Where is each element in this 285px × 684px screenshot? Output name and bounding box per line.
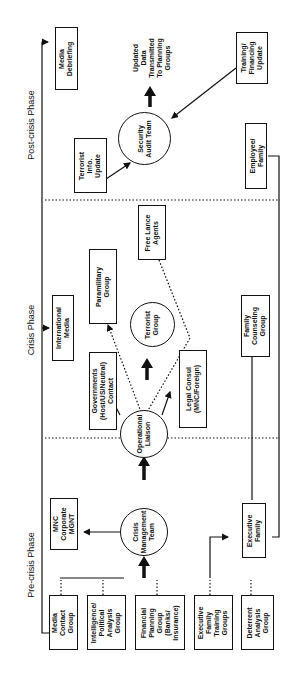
- mnc-corporate-mgnt-box: MNC Corporate MGNT: [50, 498, 78, 550]
- updated-data-note: Updated Data Transmitted To Planning Gro…: [132, 30, 172, 85]
- legal-consul-box: Legal Consul (MNC/Foreign): [179, 350, 207, 428]
- media-debriefing-box: Media Debriefing: [55, 27, 78, 90]
- phase-label-post-crisis: Post-crisis Phase: [20, 80, 42, 170]
- security-audit-team-circle: Security Audit Team: [118, 112, 171, 165]
- financial-planning-group-box: Financial Planning Group (Banks/ Insuran…: [135, 595, 185, 650]
- free-lance-agents-box: Free Lance Agents: [138, 205, 166, 260]
- terrorist-group-circle: Terrorist Group: [130, 302, 175, 347]
- paramilitary-group-box: Paramilitary Group: [89, 249, 117, 324]
- governments-contact-box: Governments (Host/US/Neutral) Contact: [89, 352, 117, 430]
- crisis-management-team-circle: Crisis Management Team: [120, 508, 168, 556]
- international-media-box: International Media: [52, 295, 74, 361]
- terrorist-info-update-box: Terrorist Info. Update: [74, 138, 107, 193]
- intelligence-political-analysis-group-box: Intelligence/ Political Analysis Group: [87, 595, 126, 650]
- phase-label-crisis: Crisis Phase: [20, 295, 42, 365]
- phase-label-pre-crisis: Pre-crisis Phase: [20, 520, 42, 610]
- operational-liaison-circle: Operational Liaison: [120, 410, 168, 458]
- employee-family-box: Employee/ Family: [245, 123, 267, 189]
- family-counseling-group-box: Family Counseling Group: [241, 295, 270, 357]
- training-financing-update-box: Training/ Financing Update: [236, 32, 268, 84]
- executive-family-box: Executive Family: [242, 503, 266, 558]
- executive-family-training-groups-box: Executive Family Training Groups: [194, 595, 233, 650]
- media-contact-group-box: Media Contact Group: [49, 595, 78, 650]
- deterrent-analysis-group-box: Deterrent Analysis Group: [241, 595, 274, 650]
